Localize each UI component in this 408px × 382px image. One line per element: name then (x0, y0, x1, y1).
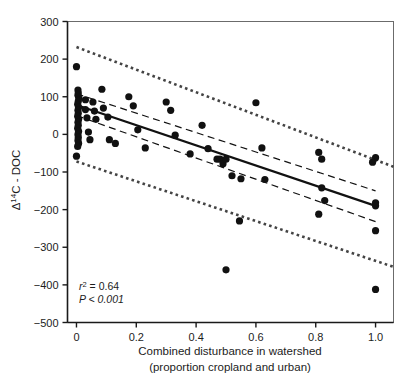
data-point (258, 144, 265, 151)
data-point (372, 227, 379, 234)
data-point (130, 102, 137, 109)
stats-annotation: r2 = 0.64 P < 0.001 (79, 280, 124, 306)
data-point (73, 63, 80, 70)
y-tick-label: 0 (52, 128, 58, 140)
data-point (112, 140, 119, 147)
data-point (86, 136, 93, 143)
x-tick-label: 0.4 (188, 331, 203, 343)
data-point (106, 136, 113, 143)
data-point (315, 211, 322, 218)
data-point (104, 113, 111, 120)
x-tick-label: 0.6 (248, 331, 263, 343)
x-tick-label: 1.0 (368, 331, 383, 343)
data-point (187, 150, 194, 157)
y-tick-label: −100 (34, 166, 59, 178)
figure-container: 3002001000−100−200−300−400−500 00.20.40.… (0, 0, 408, 382)
y-tick-label: −300 (34, 241, 59, 253)
data-point (372, 202, 379, 209)
y-tick-label: −500 (34, 317, 59, 329)
p-value-text: P < 0.001 (79, 293, 124, 305)
data-point (315, 149, 322, 156)
data-point (167, 107, 174, 114)
data-point (372, 286, 379, 293)
y-axis-title: Δ14C - DOC (9, 150, 22, 211)
data-point (85, 129, 92, 136)
data-point (318, 156, 325, 163)
data-point (89, 98, 96, 105)
y-tick-label: −200 (34, 204, 59, 216)
data-point (134, 126, 141, 133)
data-point (198, 122, 205, 129)
scatter-plot: 3002001000−100−200−300−400−500 00.20.40.… (0, 0, 408, 382)
svg-text:Δ14C - DOC: Δ14C - DOC (9, 150, 22, 211)
x-axis-tick-labels: 00.20.40.60.81.0 (73, 331, 383, 343)
y-tick-label: 100 (40, 91, 58, 103)
data-point (222, 266, 229, 273)
data-point (252, 99, 259, 106)
data-point (91, 107, 98, 114)
data-point (98, 86, 105, 93)
data-point (82, 106, 89, 113)
data-point (100, 104, 107, 111)
data-point (369, 159, 376, 166)
data-point (237, 175, 244, 182)
data-point (163, 98, 170, 105)
x-axis-title: Combined disturbance in watershed (propo… (138, 345, 321, 373)
x-tick-label: 0.8 (308, 331, 323, 343)
x-axis-title-line2: (proportion cropland and urban) (149, 361, 311, 373)
data-point (261, 176, 268, 183)
data-point (204, 145, 211, 152)
data-point (222, 156, 229, 163)
y-axis-title-rest: C - DOC (10, 150, 22, 194)
x-tick-label: 0 (73, 331, 79, 343)
data-point (228, 172, 235, 179)
plot-frame (68, 22, 394, 323)
x-tick-label: 0.2 (129, 331, 144, 343)
data-point (236, 217, 243, 224)
data-point (83, 114, 90, 121)
p-value-annotation: P < 0.001 (79, 293, 124, 305)
data-point (92, 116, 99, 123)
y-tick-label: −400 (34, 279, 59, 291)
y-tick-label: 200 (40, 53, 58, 65)
y-axis-tick-labels: 3002001000−100−200−300−400−500 (34, 16, 59, 329)
x-axis-title-line1: Combined disturbance in watershed (138, 345, 321, 357)
data-point (125, 93, 132, 100)
data-point (82, 96, 89, 103)
data-point (74, 143, 81, 150)
y-tick-label: 300 (40, 16, 58, 28)
data-point (321, 197, 328, 204)
r-value: = 0.64 (87, 280, 120, 292)
data-point (142, 144, 149, 151)
data-point (75, 89, 82, 96)
data-point (172, 132, 179, 139)
data-point (73, 153, 80, 160)
data-point (318, 184, 325, 191)
